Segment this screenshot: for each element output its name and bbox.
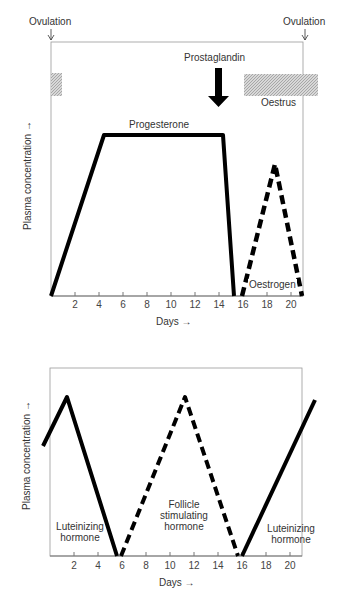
tick-label: 8 xyxy=(144,299,150,310)
fsh-label-line1: Follicle xyxy=(154,499,214,510)
tick-label: 6 xyxy=(120,299,126,310)
lh-right-label-line2: hormone xyxy=(263,534,319,545)
oestrus-band xyxy=(244,74,318,96)
fsh-label: Follicle stimulating hormone xyxy=(154,499,214,532)
tick-label: 14 xyxy=(212,560,223,571)
tick-label: 12 xyxy=(189,299,200,310)
oestrogen-label: Oestrogen xyxy=(248,279,297,290)
fsh-label-line3: hormone xyxy=(154,521,214,532)
lh-left-label-line1: Luteinizing xyxy=(52,521,108,532)
tick-label: 16 xyxy=(237,299,248,310)
top-x-ticks xyxy=(75,292,291,296)
tick-label: 2 xyxy=(71,560,77,571)
ovulation-right-label: Ovulation xyxy=(283,16,325,27)
lh-right-label-line1: Luteinizing xyxy=(263,523,319,534)
progesterone-label: Progesterone xyxy=(129,119,189,130)
top-chart xyxy=(48,29,318,296)
oestrogen-line xyxy=(242,164,302,296)
fsh-label-line2: stimulating xyxy=(154,510,214,521)
ovulation-right-arrow-icon xyxy=(302,29,308,40)
oestrus-label: Oestrus xyxy=(261,97,296,108)
tick-label: 8 xyxy=(143,560,149,571)
lh-left-label: Luteinizing hormone xyxy=(52,521,108,543)
top-x-axis-label: Days → xyxy=(156,316,192,327)
tick-label: 10 xyxy=(164,560,175,571)
tick-label: 16 xyxy=(236,560,247,571)
ovulation-left-arrow-icon xyxy=(48,29,54,40)
tick-label: 12 xyxy=(188,560,199,571)
tick-label: 18 xyxy=(261,299,272,310)
tick-label: 10 xyxy=(165,299,176,310)
tick-label: 14 xyxy=(213,299,224,310)
tick-label: 6 xyxy=(119,560,125,571)
tick-label: 18 xyxy=(260,560,271,571)
tick-label: 20 xyxy=(284,560,295,571)
top-y-axis-label: Plasma concentration → xyxy=(22,121,33,230)
prostaglandin-label: Prostaglandin xyxy=(184,52,245,63)
progesterone-line xyxy=(51,135,234,296)
tick-label: 4 xyxy=(96,299,102,310)
prostaglandin-arrow-icon xyxy=(208,68,229,107)
bottom-y-axis-label: Plasma concentration → xyxy=(21,401,32,510)
bottom-x-axis-label: Days → xyxy=(159,577,195,588)
ovulation-left-label: Ovulation xyxy=(29,16,71,27)
tick-label: 20 xyxy=(285,299,296,310)
left-hatched-band xyxy=(51,73,62,96)
lh-right-label: Luteinizing hormone xyxy=(263,523,319,545)
bottom-x-ticks xyxy=(74,552,290,556)
fsh-line xyxy=(121,397,238,556)
lh-left-label-line2: hormone xyxy=(52,532,108,543)
tick-label: 4 xyxy=(95,560,101,571)
tick-label: 2 xyxy=(72,299,78,310)
